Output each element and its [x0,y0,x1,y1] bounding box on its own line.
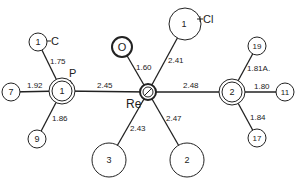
atom-p1-name: P [69,67,76,79]
atom-c1: 1 C [29,33,59,51]
atom-cl-label: 1 [181,19,186,29]
bond-length-re-c3: 2.43 [130,124,146,133]
atom-p1-label: 1 [59,86,64,96]
atom-c11-label: 11 [281,88,290,97]
atom-cl: 1 Cl [169,8,213,40]
bond-length-re-cl: 2.41 [168,56,184,65]
atom-c3: 3 [92,143,126,177]
atom-c11: 11 [276,83,294,101]
atom-c19: 19 [248,37,266,55]
atom-o-label: O [118,41,127,53]
atom-c3-label: 3 [106,155,111,165]
bond-length-p1-c9: 1.86 [52,114,68,123]
bond-length-re-c2: 2.47 [166,114,182,123]
atom-c17: 17 [248,129,266,147]
atom-c17-label: 17 [253,134,262,143]
atom-c9: 9 [28,130,46,148]
bond-length-p2-c11: 1.80 [254,82,270,91]
atom-p2: 2 [219,79,245,105]
bond-length-re-p2: 2.48 [183,81,199,90]
atom-cl-name: Cl [203,13,213,25]
molecule-diagram: 1 C 7 9 1 P O 1 Cl Re 3 2 [0,0,297,181]
atom-c1-label: 1 [35,37,40,47]
bond-length-p1-c1: 1.75 [50,57,66,66]
bond-length-p2-c19: 1.81A. [247,64,270,73]
atom-c2: 2 [170,143,204,177]
atom-re: Re [126,84,156,111]
atom-o: O [112,37,132,57]
atom-c2-label: 2 [184,155,189,165]
bond-length-p2-c17: 1.84 [250,113,266,122]
bond-length-re-o: 1.60 [136,63,152,72]
atom-re-name: Re [126,97,142,111]
atom-c19-label: 19 [253,42,262,51]
atom-c7: 7 [2,83,20,101]
bond-length-p1-c7: 1.92 [27,81,43,90]
bond-length-p1-re: 2.45 [97,81,113,90]
atom-c1-name: C [51,35,59,47]
atom-c9-label: 9 [34,134,39,144]
atom-c7-label: 7 [8,87,13,97]
atom-p2-label: 2 [229,87,234,97]
